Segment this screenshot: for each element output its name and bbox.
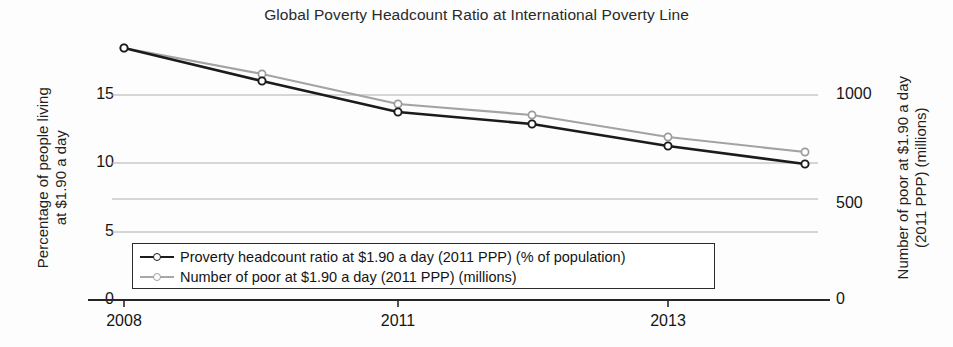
series-headcount-ratio xyxy=(120,44,808,167)
legend-item-number-of-poor[interactable]: Number of poor at $1.90 a day (2011 PPP)… xyxy=(140,267,707,287)
legend-label-number-of-poor: Number of poor at $1.90 a day (2011 PPP)… xyxy=(180,269,517,285)
x-axis-line xyxy=(88,300,830,307)
legend-label-headcount-ratio: Proverty headcount ratio at $1.90 a day … xyxy=(180,249,625,265)
series-headcount-ratio-markers xyxy=(120,44,808,167)
chart-figure: Global Poverty Headcount Ratio at Intern… xyxy=(0,0,953,347)
series-number-of-poor xyxy=(120,44,808,155)
gridlines xyxy=(112,95,818,232)
legend-marker-number-of-poor-icon xyxy=(140,270,174,284)
legend-marker-headcount-ratio-icon xyxy=(140,250,174,264)
chart-legend: Proverty headcount ratio at $1.90 a day … xyxy=(132,243,715,289)
series-number-of-poor-markers xyxy=(120,44,808,155)
legend-item-headcount-ratio[interactable]: Proverty headcount ratio at $1.90 a day … xyxy=(140,247,707,267)
plot-area xyxy=(0,0,953,347)
